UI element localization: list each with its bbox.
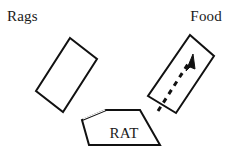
maze-illustration: RAT: [0, 0, 230, 160]
rags-label: Rags: [7, 9, 38, 24]
rags-arm-shape: [36, 38, 97, 112]
rat-chamber-label: RAT: [109, 125, 138, 141]
food-label: Food: [190, 9, 222, 24]
diagram-canvas: RAT Rags Food: [0, 0, 230, 160]
